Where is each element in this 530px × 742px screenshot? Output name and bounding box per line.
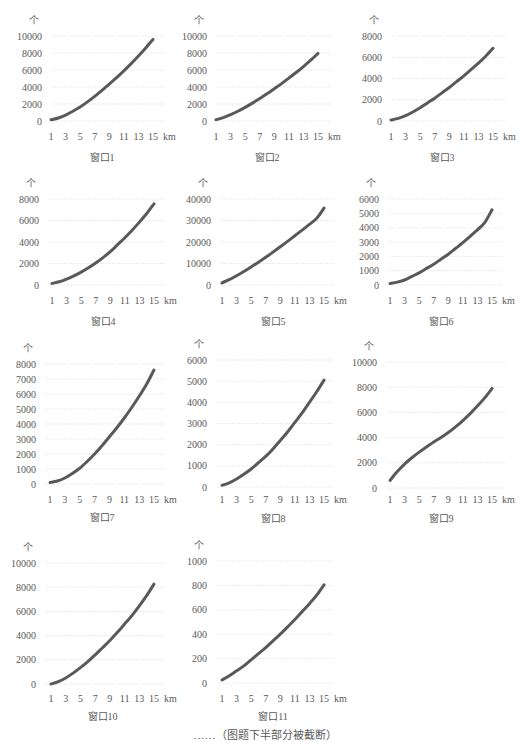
x-tick-label: 5	[243, 131, 248, 142]
x-tick-label: 3	[63, 131, 68, 142]
y-tick-label: 1000	[187, 460, 207, 471]
x-unit-label: km	[334, 494, 347, 505]
x-tick-label: 7	[431, 295, 436, 306]
data-series-line	[52, 204, 154, 284]
x-tick-label: 11	[119, 494, 129, 505]
data-series-line	[50, 370, 154, 483]
x-tick-label: 15	[313, 131, 323, 142]
x-tick-label: 1	[388, 494, 393, 505]
x-unit-label: km	[334, 295, 347, 306]
y-tick-label: 20000	[186, 237, 211, 248]
line-chart: 个0200400600800100013579111315km	[175, 530, 355, 705]
x-tick-label: 13	[472, 494, 482, 505]
y-tick-label: 0	[31, 479, 36, 490]
x-tick-label: 15	[319, 494, 329, 505]
x-tick-label: 3	[63, 693, 68, 704]
y-tick-label: 3000	[187, 418, 207, 429]
x-tick-label: 9	[107, 494, 112, 505]
y-tick-label: 8000	[187, 48, 207, 59]
x-tick-label: 11	[458, 295, 468, 306]
y-tick-label: 6000	[187, 65, 207, 76]
y-tick-label: 4000	[16, 419, 36, 430]
x-tick-label: 9	[278, 494, 283, 505]
x-tick-label: 3	[62, 494, 67, 505]
x-tick-label: 13	[134, 693, 144, 704]
y-tick-label: 4000	[357, 432, 377, 443]
y-tick-label: 6000	[22, 65, 42, 76]
x-tick-label: 15	[149, 693, 159, 704]
y-tick-label: 0	[37, 116, 42, 127]
x-unit-label: km	[503, 131, 516, 142]
y-unit-label: 个	[23, 343, 33, 354]
x-tick-label: 15	[319, 693, 329, 704]
data-series-line	[391, 48, 493, 120]
chart-title: 窗口4	[73, 313, 133, 328]
x-tick-label: 13	[473, 131, 483, 142]
y-tick-label: 0	[202, 678, 207, 689]
data-series-line	[222, 380, 324, 485]
x-tick-label: 1	[389, 131, 394, 142]
y-unit-label: 个	[23, 542, 33, 553]
x-tick-label: 13	[133, 131, 143, 142]
x-tick-label: 13	[298, 131, 308, 142]
x-tick-label: 5	[79, 295, 84, 306]
y-tick-label: 1000	[187, 556, 207, 567]
chart-panel-7: 个010002000300040005000600070008000135791…	[0, 335, 180, 525]
y-tick-label: 10000	[186, 258, 211, 269]
y-tick-label: 400	[192, 629, 207, 640]
chart-panel-5: 个01000020000300004000013579111315km窗口5	[175, 170, 355, 330]
x-tick-label: 9	[278, 693, 283, 704]
x-tick-label: 9	[107, 131, 112, 142]
x-tick-label: 15	[148, 131, 158, 142]
x-unit-label: km	[502, 295, 515, 306]
x-tick-label: 9	[108, 295, 113, 306]
x-tick-label: 13	[304, 494, 314, 505]
y-tick-label: 5000	[187, 376, 207, 387]
line-chart: 个020004000600080001000013579111315km	[0, 530, 180, 705]
x-tick-label: 15	[487, 295, 497, 306]
x-tick-label: 3	[234, 494, 239, 505]
x-tick-label: 9	[446, 295, 451, 306]
x-tick-label: 3	[403, 131, 408, 142]
x-tick-label: 15	[487, 494, 497, 505]
y-tick-label: 10000	[17, 31, 42, 42]
x-tick-label: 5	[417, 295, 422, 306]
y-tick-label: 2000	[22, 99, 42, 110]
line-chart: 个0200040006000800013579111315km	[355, 0, 530, 170]
x-tick-label: 9	[447, 131, 452, 142]
y-tick-label: 6000	[19, 215, 39, 226]
x-tick-label: 11	[290, 693, 300, 704]
y-tick-label: 0	[372, 483, 377, 494]
x-tick-label: 7	[92, 494, 97, 505]
x-tick-label: 13	[134, 494, 144, 505]
x-tick-label: 11	[459, 131, 469, 142]
y-tick-label: 0	[206, 280, 211, 291]
chart-title: 窗口7	[72, 509, 132, 524]
x-tick-label: 7	[263, 494, 268, 505]
y-tick-label: 30000	[186, 215, 211, 226]
x-tick-label: 13	[472, 295, 482, 306]
line-chart: 个010002000300040005000600013579111315km	[175, 335, 355, 525]
y-tick-label: 2000	[359, 251, 379, 262]
x-tick-label: 7	[432, 131, 437, 142]
x-tick-label: 15	[149, 295, 159, 306]
y-tick-label: 0	[202, 116, 207, 127]
chart-panel-11: 个0200400600800100013579111315km窗口11	[175, 530, 355, 705]
x-tick-label: 7	[93, 693, 98, 704]
y-tick-label: 4000	[359, 222, 379, 233]
x-tick-label: 1	[214, 131, 219, 142]
x-tick-label: 5	[77, 494, 82, 505]
x-tick-label: 7	[257, 131, 262, 142]
data-series-line	[390, 388, 492, 480]
x-tick-label: 7	[92, 131, 97, 142]
x-tick-label: 3	[234, 295, 239, 306]
y-tick-label: 4000	[187, 82, 207, 93]
x-tick-label: 1	[220, 693, 225, 704]
y-tick-label: 8000	[357, 382, 377, 393]
y-unit-label: 个	[369, 15, 379, 26]
x-unit-label: km	[328, 131, 341, 142]
x-tick-label: 5	[78, 131, 83, 142]
y-tick-label: 0	[31, 679, 36, 690]
y-tick-label: 4000	[22, 82, 42, 93]
chart-title: 窗口9	[411, 510, 471, 525]
